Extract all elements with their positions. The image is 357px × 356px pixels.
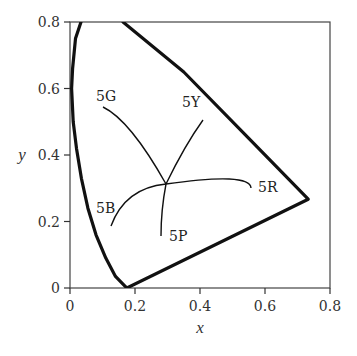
label-5Y: 5Y bbox=[182, 94, 201, 110]
x-tick-0.8: 0.8 bbox=[319, 298, 341, 314]
x-tick-0.2: 0.2 bbox=[124, 298, 146, 314]
hue-line-5G bbox=[103, 107, 166, 184]
y-tick-0.2: 0.2 bbox=[38, 214, 60, 230]
y-tick-0: 0 bbox=[51, 280, 60, 296]
label-5P: 5P bbox=[169, 228, 187, 244]
x-tick-0.6: 0.6 bbox=[254, 298, 276, 314]
hue-line-5P bbox=[161, 184, 166, 236]
x-axis-ticks bbox=[70, 288, 330, 294]
y-axis-ticks bbox=[64, 22, 70, 288]
y-tick-0.6: 0.6 bbox=[38, 81, 60, 97]
label-5G: 5G bbox=[96, 88, 116, 104]
hue-line-5R bbox=[166, 179, 251, 188]
x-tick-0.4: 0.4 bbox=[189, 298, 211, 314]
x-tick-0: 0 bbox=[66, 298, 75, 314]
label-5B: 5B bbox=[96, 200, 115, 216]
spectrum-locus bbox=[72, 22, 309, 288]
x-axis-label: x bbox=[195, 318, 204, 337]
hue-line-5B bbox=[111, 184, 166, 226]
y-axis-label: y bbox=[16, 145, 26, 164]
chromaticity-chart: 0 0.2 0.4 0.6 0.8 0 0.2 0.4 0.6 0.8 x y … bbox=[0, 0, 357, 356]
y-tick-0.8: 0.8 bbox=[38, 14, 60, 30]
label-5R: 5R bbox=[258, 179, 278, 195]
y-tick-labels: 0 0.2 0.4 0.6 0.8 bbox=[38, 14, 60, 296]
y-tick-0.4: 0.4 bbox=[38, 147, 60, 163]
plot-frame bbox=[70, 22, 330, 288]
x-tick-labels: 0 0.2 0.4 0.6 0.8 bbox=[66, 298, 342, 314]
hue-line-5Y bbox=[166, 120, 203, 184]
